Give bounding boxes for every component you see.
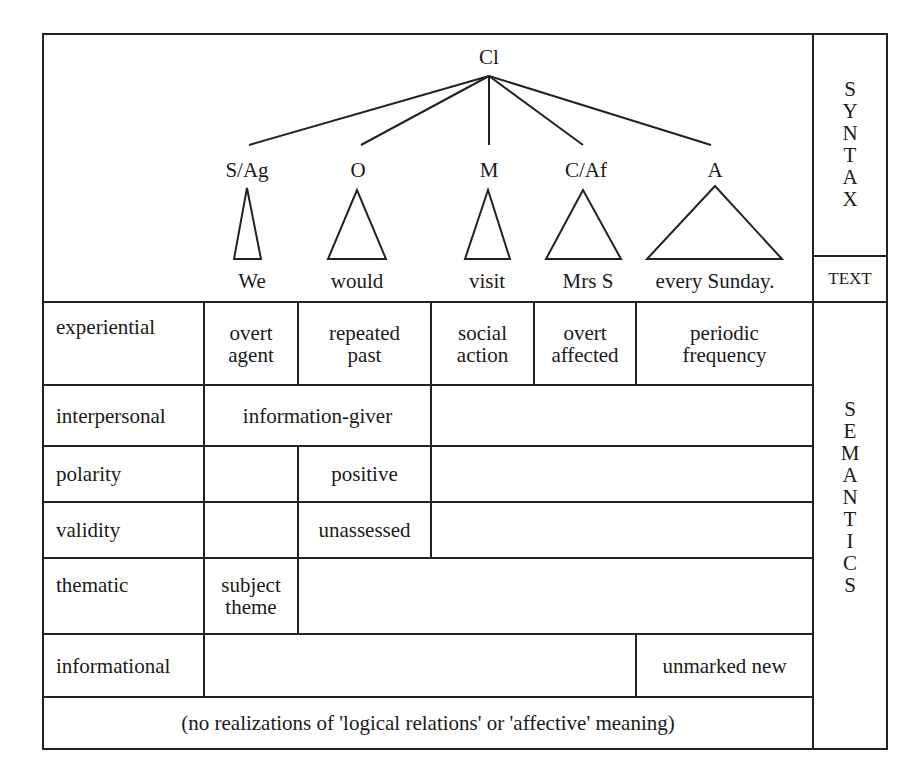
branch-a — [489, 76, 711, 145]
branch-o — [361, 76, 489, 145]
cell-line: overt — [229, 322, 272, 344]
row-label-text: thematic — [56, 574, 128, 596]
cell-value: unmarked new — [662, 655, 786, 677]
text-side-label-value: TEXT — [828, 268, 871, 290]
triangle-m-icon — [465, 190, 510, 259]
cell-value: positive — [331, 463, 398, 485]
cell-value: information-giver — [243, 405, 392, 427]
text-side-label: TEXT — [814, 257, 886, 301]
branch-c-af — [489, 76, 583, 145]
row-label-informational: informational — [44, 635, 203, 696]
syntax-letter: T — [844, 144, 857, 166]
cell-social-action: social action — [432, 303, 533, 384]
syntax-letter: X — [842, 188, 857, 210]
branch-s-ag — [249, 76, 489, 145]
cell-unassessed: unassessed — [299, 503, 430, 557]
cell-value: unassessed — [318, 519, 410, 541]
cell-line: overt — [563, 322, 606, 344]
semantics-letter: C — [843, 552, 857, 574]
node-label-m: M — [480, 158, 499, 182]
node-label-a: A — [707, 158, 723, 182]
cell-unmarked-new: unmarked new — [637, 635, 812, 696]
syntax-side-label: S Y N T A X — [814, 78, 886, 210]
syntax-letter: S — [844, 78, 856, 100]
triangle-s-ag-icon — [234, 188, 261, 259]
row-label-text: interpersonal — [56, 405, 166, 427]
semantics-letter: S — [844, 574, 856, 596]
col-divider — [297, 557, 299, 634]
row-label-text: informational — [56, 655, 170, 677]
root-node-label: Cl — [479, 45, 499, 69]
syntax-tree: Cl S/Ag O M C/Af A We would visit Mrs S … — [0, 0, 919, 300]
footnote-text: (no realizations of 'logical relations' … — [181, 712, 674, 734]
node-label-s-ag: S/Ag — [225, 158, 269, 182]
semantics-letter: N — [842, 486, 857, 508]
leaf-word-visit: visit — [469, 269, 505, 293]
cell-overt-agent: overt agent — [205, 303, 297, 384]
cell-overt-affected: overt affected — [535, 303, 635, 384]
row-label-experiential: experiential — [44, 303, 203, 351]
row-label-text: experiential — [56, 316, 155, 338]
cell-line: past — [348, 344, 382, 366]
cell-line: theme — [225, 596, 276, 618]
semantics-letter: A — [842, 464, 857, 486]
leaf-word-we: We — [238, 269, 265, 293]
syntax-letter: A — [842, 166, 857, 188]
semantics-letter: I — [847, 530, 854, 552]
syntax-letter: Y — [842, 100, 857, 122]
semantics-letter: E — [844, 420, 857, 442]
cell-line: affected — [551, 344, 618, 366]
semantics-letter: T — [844, 508, 857, 530]
cell-line: action — [457, 344, 508, 366]
footnote-row: (no realizations of 'logical relations' … — [44, 698, 812, 748]
node-label-c-af: C/Af — [565, 158, 607, 182]
node-label-o: O — [350, 158, 365, 182]
triangle-c-af-icon — [546, 190, 621, 259]
cell-line: repeated — [329, 322, 400, 344]
row-label-thematic: thematic — [44, 559, 203, 611]
leaf-word-mrs-s: Mrs S — [563, 269, 614, 293]
semantics-letter: M — [841, 442, 860, 464]
triangle-a-icon — [647, 186, 782, 259]
cell-line: subject — [221, 574, 280, 596]
cell-line: agent — [228, 344, 273, 366]
cell-repeated-past: repeated past — [299, 303, 430, 384]
cell-periodic-frequency: periodic frequency — [637, 303, 812, 384]
cell-positive: positive — [299, 447, 430, 501]
cell-information-giver: information-giver — [205, 386, 430, 445]
leaf-word-would: would — [331, 269, 384, 293]
leaf-word-every-sunday: every Sunday. — [656, 269, 775, 293]
semantics-letter: S — [844, 398, 856, 420]
syntax-letter: N — [842, 122, 857, 144]
triangle-o-icon — [328, 190, 386, 259]
cell-line: frequency — [683, 344, 767, 366]
row-label-polarity: polarity — [44, 447, 203, 501]
row-label-text: polarity — [56, 463, 121, 485]
cell-line: social — [458, 322, 507, 344]
row-label-text: validity — [56, 519, 120, 541]
row-label-interpersonal: interpersonal — [44, 386, 203, 445]
cell-subject-theme: subject theme — [205, 559, 297, 633]
cell-line: periodic — [690, 322, 759, 344]
row-label-validity: validity — [44, 503, 203, 557]
semantics-side-label: S E M A N T I C S — [814, 398, 886, 596]
